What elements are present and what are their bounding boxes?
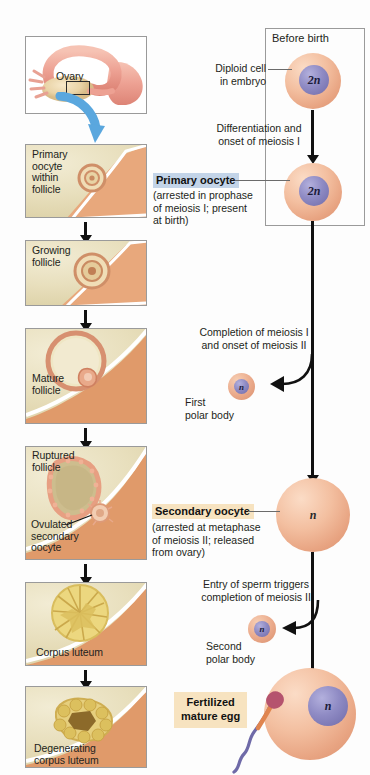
step-line: and onset of meiosis II (178, 339, 330, 352)
label-line: follicle (32, 462, 74, 474)
secondary-oocyte-ploidy-label: n (276, 478, 350, 552)
panel-degenerating-corpus-luteum: Degenerating corpus luteum (25, 686, 147, 768)
label-line: First (185, 396, 251, 409)
diploid-cell-label: Diploid cell in embryo (194, 62, 266, 87)
label-line: Degenerating (34, 743, 99, 755)
flow-arrow-panel6-to-panel7 (84, 670, 87, 682)
label-line: Second (206, 640, 276, 653)
callout-fertilized-mature-egg: Fertilized mature egg (174, 692, 247, 728)
second-polar-body-cell: n (248, 615, 276, 643)
detail-line: (arrested in prophase (153, 189, 261, 202)
label-line: within (32, 172, 67, 184)
label-line: oocyte (31, 542, 79, 554)
callout-primary-oocyte-detail: (arrested in prophase of meiosis I; pres… (153, 189, 261, 227)
primary-oocyte-nucleus: 2n (299, 176, 329, 206)
panel-label-growing-follicle: Growing follicle (32, 245, 70, 268)
label-line: Mature (32, 373, 64, 385)
step-text-completion-meiosis-one: Completion of meiosis I and onset of mei… (178, 326, 330, 351)
panel-label-ruptured-follicle: Ruptured follicle (32, 450, 74, 473)
panel-growing-follicle: Growing follicle (25, 240, 147, 306)
panel-label-ovulated-secondary-oocyte: Ovulated secondary oocyte (31, 519, 79, 554)
panel-mature-follicle: Mature follicle (25, 328, 147, 424)
panel-label-degenerating-corpus-luteum: Degenerating corpus luteum (34, 743, 99, 766)
first-polar-body-label: First polar body (185, 396, 251, 421)
second-polar-body-nucleus: n (254, 621, 270, 637)
second-polar-body-label: Second polar body (206, 640, 276, 665)
label-line: Diploid cell (194, 62, 266, 75)
callout-primary-oocyte-title: Primary oocyte (153, 173, 239, 188)
label-line: polar body (206, 653, 276, 666)
secondary-oocyte-cell: n (276, 478, 350, 552)
blue-arrow-icon (52, 92, 112, 148)
first-polar-body-nucleus: n (234, 379, 249, 394)
primary-oocyte-leader-line (235, 180, 290, 181)
label-line: follicle (32, 257, 70, 269)
label-line: follicle (32, 385, 64, 397)
callout-line: mature egg (181, 710, 240, 724)
diploid-cell: 2n (285, 53, 341, 109)
detail-line: of meiosis I; present (153, 202, 261, 215)
callout-line: Fertilized (181, 696, 240, 710)
panel-label-primary-oocyte: Primary oocyte within follicle (32, 149, 67, 195)
flow-arrow-diploid-to-primary-oocyte (311, 110, 314, 156)
panel-label-mature-follicle: Mature follicle (32, 373, 64, 396)
detail-line: from ovary) (152, 546, 272, 559)
secondary-oocyte-leader-line (248, 511, 280, 512)
primary-oocyte-cell: 2n (284, 163, 342, 221)
label-line: Primary (32, 149, 67, 161)
label-line: polar body (185, 409, 251, 422)
label-line: corpus luteum (34, 755, 99, 767)
callout-secondary-oocyte-title: Secondary oocyte (152, 504, 254, 519)
label-line: Ovulated (31, 519, 79, 531)
oogenesis-figure: Ovary Primary oocyte within follicle (0, 0, 370, 775)
diploid-cell-nucleus: 2n (299, 65, 329, 95)
step-line: Entry of sperm triggers (180, 578, 332, 591)
curved-arrow-second-polar-body (272, 598, 322, 638)
diploid-cell-leader-line (268, 69, 292, 70)
detail-line: at birth) (153, 214, 261, 227)
step-line: Completion of meiosis I (178, 326, 330, 339)
detail-line: of meiosis II; released (152, 534, 272, 547)
curved-arrow-first-polar-body (252, 352, 314, 394)
before-birth-title: Before birth (272, 32, 329, 44)
fertilized-egg-nucleus: n (308, 686, 348, 726)
label-line: Corpus luteum (36, 647, 103, 659)
label-line: in embryo (194, 75, 266, 88)
zoom-pointer-arrow (52, 92, 112, 148)
panel-label-corpus-luteum: Corpus luteum (36, 647, 103, 659)
callout-secondary-oocyte-detail: (arrested at metaphase of meiosis II; re… (152, 521, 272, 559)
detail-line: (arrested at metaphase (152, 521, 272, 534)
label-line: Ruptured (32, 450, 74, 462)
label-line: Growing (32, 245, 70, 257)
flow-arrow-panel5-to-panel6 (84, 564, 87, 578)
panel-ruptured-follicle: Ruptured follicle Ovulated secondary ooc… (25, 446, 147, 560)
flow-arrow-panel3-to-panel4 (84, 310, 87, 324)
label-line: follicle (32, 184, 67, 196)
flow-arrow-panel4-to-panel5 (84, 428, 87, 442)
flow-arrow-panel2-to-panel3 (84, 222, 87, 236)
panel-primary-oocyte-within-follicle: Primary oocyte within follicle (25, 144, 147, 218)
panel-corpus-luteum: Corpus luteum (25, 582, 147, 666)
panel-label-ovary: Ovary (56, 71, 84, 83)
